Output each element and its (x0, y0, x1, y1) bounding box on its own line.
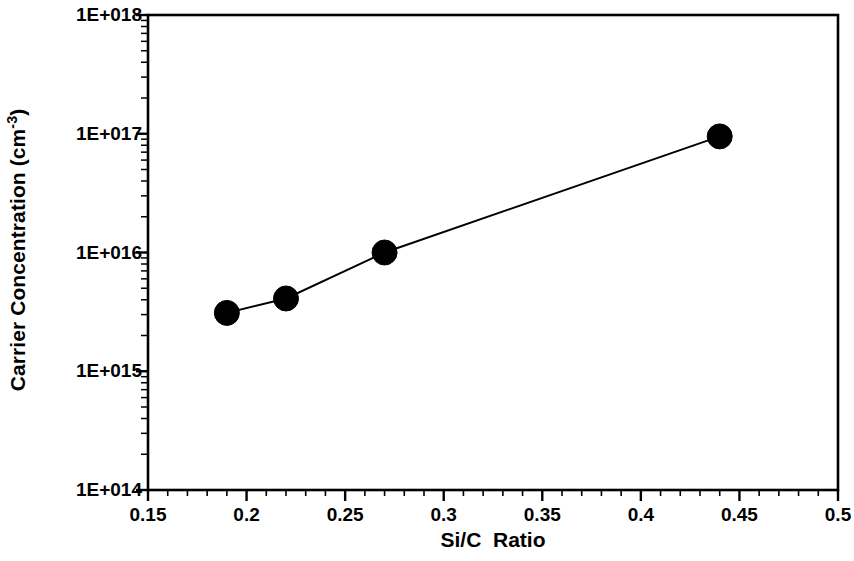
axis-ticks (136, 15, 838, 501)
plot-area (0, 0, 854, 561)
plot-frame (148, 15, 838, 490)
chart-figure: Carrier Concentration (cm-3) 1E+0141E+01… (0, 0, 854, 561)
data-point-marker (707, 124, 732, 149)
series-polyline (227, 136, 720, 313)
data-series-markers (214, 124, 732, 326)
data-point-marker (214, 300, 239, 325)
data-series-line (227, 136, 720, 313)
data-point-marker (372, 240, 397, 265)
axis-frame (148, 15, 838, 490)
data-point-marker (274, 286, 299, 311)
